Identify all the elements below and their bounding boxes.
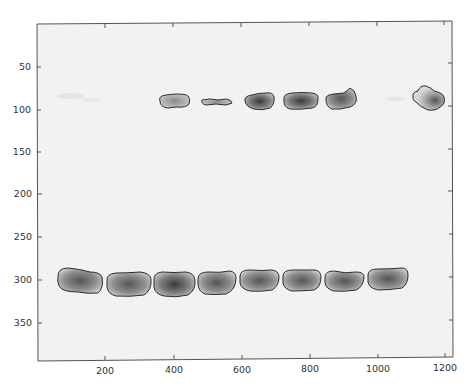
- gel-figure: 200 400 600 800 1000 1200 50 100 150 200…: [0, 0, 472, 391]
- band: [202, 99, 232, 105]
- band: [368, 268, 408, 290]
- y-tick-label: 200: [14, 188, 32, 199]
- x-tick-label: 800: [301, 363, 319, 374]
- x-tick-label: 1200: [433, 362, 457, 373]
- band: [325, 271, 364, 291]
- band: [240, 270, 279, 291]
- y-tick-label: 350: [14, 317, 32, 328]
- band: [284, 93, 318, 110]
- y-tick-label: 250: [14, 231, 32, 242]
- x-tick-label: 200: [96, 365, 114, 376]
- x-tick-label: 400: [165, 364, 183, 375]
- x-tick-label: 600: [233, 364, 251, 375]
- plot-area: [37, 21, 453, 361]
- y-tick-label: 300: [14, 274, 32, 285]
- y-tick-labels: 50 100 150 200 250 300 350: [13, 61, 32, 328]
- y-tick-label: 100: [13, 104, 31, 115]
- x-tick-label: 1000: [366, 363, 390, 374]
- band: [198, 271, 236, 295]
- band: [283, 270, 321, 291]
- band: [245, 93, 274, 110]
- band: [160, 94, 190, 108]
- band: [107, 272, 151, 296]
- band: [154, 272, 195, 297]
- y-tick-label: 50: [19, 61, 31, 72]
- y-tick-label: 150: [13, 146, 31, 157]
- x-tick-labels: 200 400 600 800 1000 1200: [96, 362, 457, 376]
